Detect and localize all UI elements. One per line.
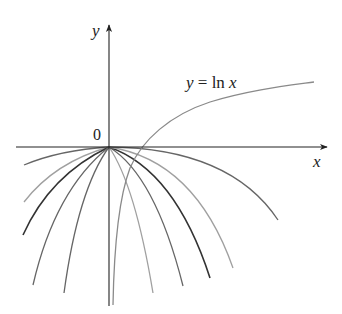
y-axis-label: y [90, 21, 100, 40]
label-eq: = ln [194, 73, 230, 92]
parabola-left-4 [33, 147, 109, 285]
label-x: x [228, 73, 237, 92]
origin-label: 0 [93, 126, 101, 143]
parabola-family [23, 147, 278, 293]
parabola-right-3 [109, 147, 210, 278]
ln-x-curve [113, 82, 314, 305]
parabola-right-4 [109, 147, 233, 268]
x-axis-label: x [312, 152, 321, 171]
ln-parabola-diagram: y x 0 y = ln x [0, 0, 342, 314]
parabola-left-1 [24, 147, 109, 165]
ln-curve-label: y = ln x [184, 73, 237, 92]
label-y: y [184, 73, 194, 92]
